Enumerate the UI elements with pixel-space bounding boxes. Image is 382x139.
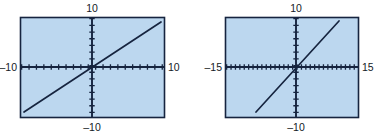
graph-1-svg: 10 –10 10 –10 bbox=[0, 0, 191, 139]
graph-1-right-label: 10 bbox=[168, 61, 180, 73]
graph-2-svg: 10 –15 15 –10 bbox=[191, 0, 382, 139]
graph-1-bottom-label: –10 bbox=[83, 121, 101, 133]
graph-2-right-label: 15 bbox=[362, 61, 374, 73]
graph-2-left-label: –15 bbox=[204, 61, 222, 73]
graph-2-bottom-label: –10 bbox=[287, 121, 305, 133]
graph-panel-2: 10 –15 15 –10 bbox=[191, 0, 382, 139]
graph-2-top-label: 10 bbox=[290, 2, 302, 14]
figure-two-graphs: 10 –10 10 –10 bbox=[0, 0, 382, 139]
graph-panel-1: 10 –10 10 –10 bbox=[0, 0, 191, 139]
graph-1-left-label: –10 bbox=[0, 61, 17, 73]
graph-1-top-label: 10 bbox=[86, 2, 98, 14]
